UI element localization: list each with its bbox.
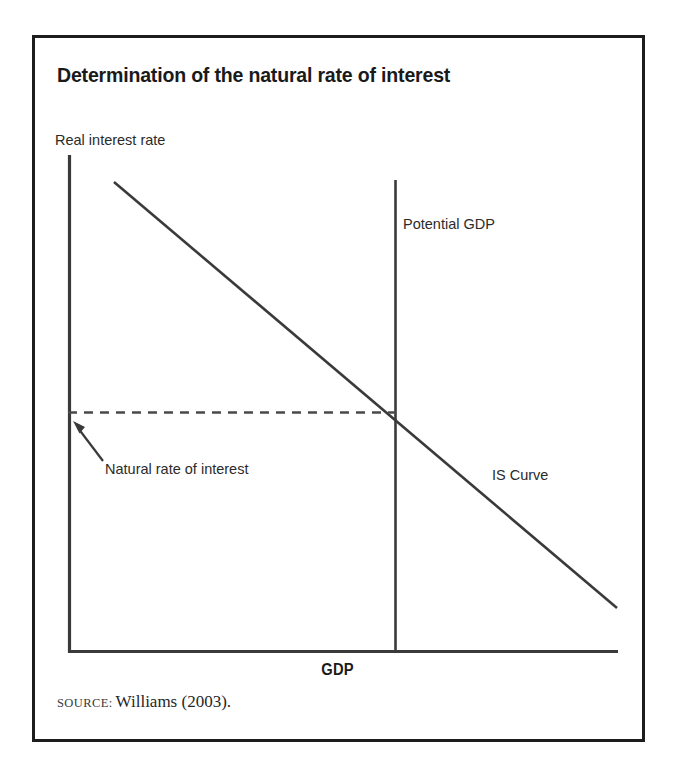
source-kicker: Source: [57,696,113,710]
natural-rate-label: Natural rate of interest [105,462,248,478]
x-axis-label: GDP [27,661,648,679]
source-note: Source:Williams (2003). [57,692,231,712]
figure-root: Determination of the natural rate of int… [0,0,675,775]
y-axis-label: Real interest rate [55,133,165,149]
source-text: Williams (2003). [116,692,231,711]
potential-gdp-label: Potential GDP [403,217,495,233]
is-curve-label: IS Curve [492,468,548,484]
figure-title: Determination of the natural rate of int… [57,63,450,87]
